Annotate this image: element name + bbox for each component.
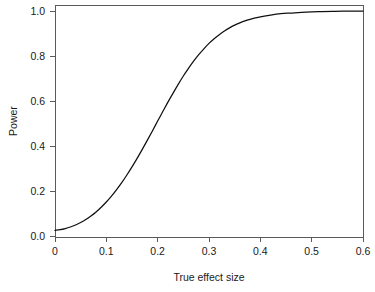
x-axis-title: True effect size: [173, 271, 244, 283]
y-axis-title: Power: [7, 106, 19, 136]
x-tick-label: 0.2: [150, 245, 165, 257]
x-tick-label: 0: [52, 245, 58, 257]
x-tick-label: 0.4: [253, 245, 268, 257]
x-tick-label: 0.6: [356, 245, 371, 257]
plot-area-background: [55, 5, 363, 237]
y-tick-label: 0.8: [30, 50, 45, 62]
x-tick-label: 0.3: [202, 245, 217, 257]
x-tick-label: 0.5: [304, 245, 319, 257]
power-curve-figure: 00.10.20.30.40.50.6 0.00.20.40.60.81.0 T…: [0, 0, 375, 292]
y-tick-label: 0.0: [30, 230, 45, 242]
plot-canvas: 00.10.20.30.40.50.6 0.00.20.40.60.81.0 T…: [0, 0, 375, 292]
y-tick-label: 0.4: [30, 140, 45, 152]
y-tick-label: 0.6: [30, 95, 45, 107]
x-tick-label: 0.1: [99, 245, 114, 257]
y-tick-label: 1.0: [30, 5, 45, 17]
y-tick-label: 0.2: [30, 185, 45, 197]
